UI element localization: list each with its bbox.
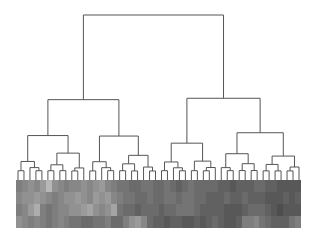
dendrogram-branch bbox=[123, 164, 135, 171]
dendrogram-branch bbox=[129, 155, 148, 167]
dendrogram-branch bbox=[239, 171, 245, 180]
dendrogram-branch bbox=[191, 171, 197, 180]
dendrogram-branch bbox=[30, 168, 39, 180]
dendrogram bbox=[0, 0, 315, 182]
dendrogram-branch bbox=[263, 171, 269, 180]
dendrogram-branch bbox=[132, 171, 138, 180]
dendrogram-branch bbox=[57, 153, 79, 168]
dendrogram-branch bbox=[75, 168, 84, 180]
dendrogram-branch bbox=[108, 171, 114, 180]
heatmap-cell bbox=[295, 192, 301, 204]
dendrogram-branch bbox=[171, 143, 202, 162]
dendrogram-branch bbox=[227, 171, 233, 180]
heatmap bbox=[16, 180, 301, 228]
dendrogram-branch bbox=[173, 168, 182, 180]
dendrogram-branch bbox=[18, 171, 24, 180]
dendrogram-branch bbox=[290, 167, 299, 180]
heatmap-cell bbox=[295, 180, 301, 192]
dendrogram-branch bbox=[187, 98, 260, 143]
dendrogram-branch bbox=[203, 171, 209, 180]
dendrogram-branch bbox=[48, 100, 119, 136]
dendrogram-branch bbox=[164, 162, 177, 171]
dendrogram-branch bbox=[72, 171, 78, 180]
dendrogram-branch bbox=[221, 168, 230, 180]
heatmap-cell bbox=[295, 216, 301, 228]
dendrogram-branch bbox=[179, 171, 185, 180]
dendrogram-branch bbox=[287, 171, 293, 180]
dendrogram-branch bbox=[120, 171, 126, 180]
heatmap-cell bbox=[295, 204, 301, 216]
dendrogram-branch bbox=[51, 165, 63, 171]
dendrogram-branch bbox=[237, 133, 283, 156]
dendrogram-branch bbox=[21, 161, 34, 170]
dendrogram-branch bbox=[99, 136, 138, 162]
dendrogram-branch bbox=[83, 15, 223, 100]
dendrogram-branch bbox=[60, 171, 66, 180]
dendrogram-branch bbox=[144, 167, 153, 180]
dendrogram-branch bbox=[102, 168, 111, 180]
dendrogram-branch bbox=[266, 164, 278, 170]
dendrogram-branch bbox=[194, 161, 210, 171]
dendrogram-branch bbox=[275, 171, 281, 180]
dendrogram-branch bbox=[251, 171, 257, 180]
dendrogram-heatmap-figure bbox=[0, 0, 315, 244]
dendrogram-branch bbox=[206, 168, 215, 180]
dendrogram-branch bbox=[28, 136, 68, 162]
dendrogram-branch bbox=[242, 164, 254, 171]
dendrogram-branch bbox=[93, 162, 106, 171]
dendrogram-branch bbox=[48, 171, 54, 180]
dendrogram-branch bbox=[90, 171, 96, 180]
dendrogram-branch bbox=[161, 171, 167, 180]
dendrogram-branch bbox=[226, 154, 248, 168]
dendrogram-branch bbox=[272, 156, 294, 167]
dendrogram-branch bbox=[150, 171, 156, 180]
dendrogram-branch bbox=[36, 171, 42, 180]
